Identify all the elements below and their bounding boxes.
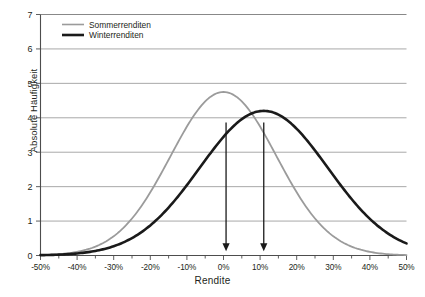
chart-container: -50%-40%-30%-20%-10%0%10%20%30%40%50% 01… bbox=[0, 0, 425, 297]
legend-label: Sommerrenditen bbox=[89, 20, 151, 30]
chart-legend: SommerrenditenWinterrenditen bbox=[62, 20, 151, 40]
y-tick-label: 0 bbox=[27, 251, 32, 261]
x-axis-ticks bbox=[41, 256, 407, 261]
x-tick-label: 0% bbox=[218, 263, 230, 272]
chart-canvas: -50%-40%-30%-20%-10%0%10%20%30%40%50% 01… bbox=[0, 0, 425, 297]
x-axis-tick-labels: -50%-40%-30%-20%-10%0%10%20%30%40%50% bbox=[31, 263, 414, 272]
y-tick-label: 1 bbox=[27, 216, 32, 226]
legend-item: Winterrenditen bbox=[62, 30, 144, 40]
x-tick-label: -40% bbox=[68, 263, 87, 272]
series-line-sommerrenditen bbox=[41, 92, 407, 255]
x-tick-label: -10% bbox=[178, 263, 197, 272]
x-tick-label: -20% bbox=[141, 263, 160, 272]
x-tick-label: 10% bbox=[252, 263, 268, 272]
x-tick-label: 30% bbox=[325, 263, 341, 272]
series-line-winterrenditen bbox=[41, 111, 407, 255]
x-tick-label: 40% bbox=[362, 263, 378, 272]
legend-item: Sommerrenditen bbox=[62, 20, 151, 30]
x-tick-label: -30% bbox=[104, 263, 123, 272]
x-axis-title: Rendite bbox=[0, 275, 425, 286]
y-axis-title: Absolute Häufigkeit bbox=[28, 30, 39, 190]
data-series bbox=[41, 92, 407, 255]
arrow-head bbox=[260, 243, 267, 251]
arrow-head bbox=[222, 243, 229, 251]
y-tick-label: 7 bbox=[27, 10, 32, 20]
gridlines bbox=[41, 15, 407, 222]
legend-label: Winterrenditen bbox=[89, 30, 144, 40]
x-tick-label: -50% bbox=[31, 263, 50, 272]
x-tick-label: 50% bbox=[398, 263, 414, 272]
x-tick-label: 20% bbox=[289, 263, 305, 272]
